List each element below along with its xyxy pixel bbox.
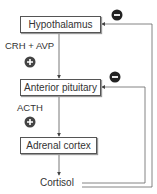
adrenal-cortex-box: Adrenal cortex bbox=[20, 137, 97, 154]
feedback-to-pituitary bbox=[82, 87, 145, 183]
plus-icon-2 bbox=[25, 117, 36, 128]
feedback-to-hypothalamus bbox=[82, 24, 152, 187]
anterior-pituitary-label: Anterior pituitary bbox=[24, 82, 97, 93]
adrenal-cortex-label: Adrenal cortex bbox=[26, 140, 90, 151]
hypothalamus-box: Hypothalamus bbox=[20, 16, 101, 33]
hypothalamus-label: Hypothalamus bbox=[29, 19, 93, 30]
crh-avp-label: CRH + AVP bbox=[5, 40, 54, 51]
plus-icon-1 bbox=[25, 57, 36, 68]
anterior-pituitary-box: Anterior pituitary bbox=[20, 79, 101, 96]
minus-icon-1 bbox=[112, 10, 123, 21]
acth-label: ACTH bbox=[17, 102, 43, 113]
minus-icon-2 bbox=[110, 72, 121, 83]
cortisol-label: Cortisol bbox=[40, 177, 74, 188]
